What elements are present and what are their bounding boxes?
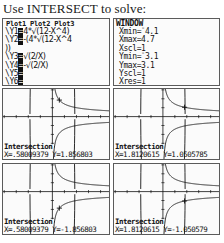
equals-cursor-icon: = bbox=[18, 78, 23, 86]
calculator-screens-row: Plot1 Plot2 Plot3 \Y1=4*√(12-X^4)\Y2=-(4… bbox=[0, 18, 224, 86]
intersection-x-value: X=.58009379 bbox=[4, 150, 48, 159]
intersection-readout: IntersectionX=.58009379Y=-1.856803 bbox=[3, 218, 109, 234]
window-settings-list: Xmin=¯4.1Xmax=4.7Xscl=1Ymin=¯3.1Ymax=3.1… bbox=[115, 28, 219, 86]
equation-row[interactable]: \Y2=-(4*√(12-X^4 bbox=[4, 36, 109, 44]
window-settings-screen[interactable]: WINDOW Xmin=¯4.1Xmax=4.7Xscl=1Ymin=¯3.1Y… bbox=[113, 18, 220, 86]
intersection-x-value: X=1.8120615 bbox=[115, 150, 159, 159]
page-title: Use INTERSECT to solve: bbox=[0, 0, 224, 18]
equation-expression: -√(2/X) bbox=[23, 61, 48, 70]
intersection-x-value: X=.58009379 bbox=[4, 225, 48, 234]
intersection-x-value: X=1.8120615 bbox=[115, 225, 159, 234]
intersection-values: X=1.8120615Y=-1.050579 bbox=[114, 226, 219, 234]
curve-y3 bbox=[53, 164, 109, 186]
graph-screens-grid: IntersectionX=.58009379Y=1.856803Interse… bbox=[0, 86, 224, 237]
intersection-y-value: Y=1.856803 bbox=[52, 150, 92, 159]
intersection-values: X=1.8120615Y=1.0505785 bbox=[114, 151, 219, 159]
intersection-y-value: Y=-1.856803 bbox=[52, 225, 96, 234]
equation-label: \Y6 bbox=[5, 77, 18, 86]
window-setting-key: Xres= bbox=[119, 77, 141, 86]
worksheet-page: Use INTERSECT to solve: Plot1 Plot2 Plot… bbox=[0, 0, 224, 243]
equation-expression: -(4*√(12-X^4 bbox=[23, 35, 71, 44]
negative-sign-icon: ¯ bbox=[141, 27, 145, 35]
window-setting-value: 1 bbox=[141, 77, 145, 86]
intersection-readout: IntersectionX=.58009379Y=1.856803 bbox=[3, 143, 109, 159]
intersection-readout: IntersectionX=1.8120615Y=1.0505785 bbox=[114, 143, 219, 159]
y-equation-editor-screen[interactable]: Plot1 Plot2 Plot3 \Y1=4*√(12-X^4)\Y2=-(4… bbox=[2, 18, 110, 86]
graph-bottom-right[interactable]: IntersectionX=1.8120615Y=-1.050579 bbox=[113, 163, 220, 235]
graph-top-left[interactable]: IntersectionX=.58009379Y=1.856803 bbox=[2, 88, 110, 160]
intersection-values: X=.58009379Y=1.856803 bbox=[3, 151, 109, 159]
intersection-readout: IntersectionX=1.8120615Y=-1.050579 bbox=[114, 218, 219, 234]
curve-y3 bbox=[164, 89, 219, 111]
negative-sign-icon: ¯ bbox=[141, 52, 145, 60]
intersection-y-value: Y=1.0505785 bbox=[163, 150, 207, 159]
graph-top-right[interactable]: IntersectionX=1.8120615Y=1.0505785 bbox=[113, 88, 220, 160]
curve-y3 bbox=[164, 164, 219, 186]
equation-list: \Y1=4*√(12-X^4)\Y2=-(4*√(12-X^4))\Y3=√(2… bbox=[4, 28, 109, 86]
intersection-values: X=.58009379Y=-1.856803 bbox=[3, 226, 109, 234]
graph-bottom-left[interactable]: IntersectionX=.58009379Y=-1.856803 bbox=[2, 163, 110, 235]
window-setting-row[interactable]: Xres=1 bbox=[115, 78, 219, 86]
equation-row[interactable]: \Y6= bbox=[4, 78, 109, 86]
intersection-y-value: Y=-1.050579 bbox=[163, 225, 207, 234]
